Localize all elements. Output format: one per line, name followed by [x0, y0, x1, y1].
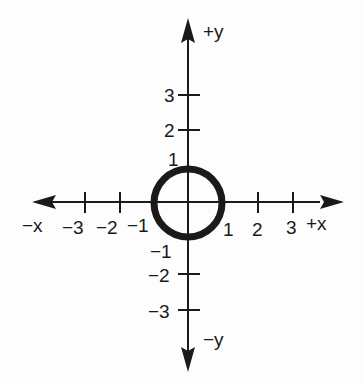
coordinate-plane-diagram: +y −y −x +x −3 −2 −1 1 2 3 3 2 1 −1 −2 −…: [0, 0, 362, 384]
axes-graphic: [0, 0, 362, 384]
y-negative-label: −y: [203, 330, 224, 349]
x-tick-label-neg1: −1: [127, 216, 149, 235]
x-positive-label: +x: [306, 214, 327, 233]
y-tick-label-3: 3: [164, 86, 175, 105]
x-tick-label-neg2: −2: [96, 218, 118, 237]
x-tick-label-2: 2: [252, 220, 263, 239]
x-tick-label-1: 1: [223, 220, 234, 239]
y-positive-label: +y: [203, 22, 224, 41]
y-tick-label-neg3: −3: [148, 302, 170, 321]
x-axis-right-arrow-icon: [320, 195, 344, 209]
y-tick-label-neg1: −1: [150, 242, 172, 261]
x-negative-label: −x: [22, 216, 43, 235]
x-tick-label-3: 3: [286, 218, 297, 237]
y-tick-label-1: 1: [168, 150, 179, 169]
x-tick-label-neg3: −3: [62, 218, 84, 237]
y-tick-label-2: 2: [164, 121, 175, 140]
y-tick-label-neg2: −2: [148, 266, 170, 285]
